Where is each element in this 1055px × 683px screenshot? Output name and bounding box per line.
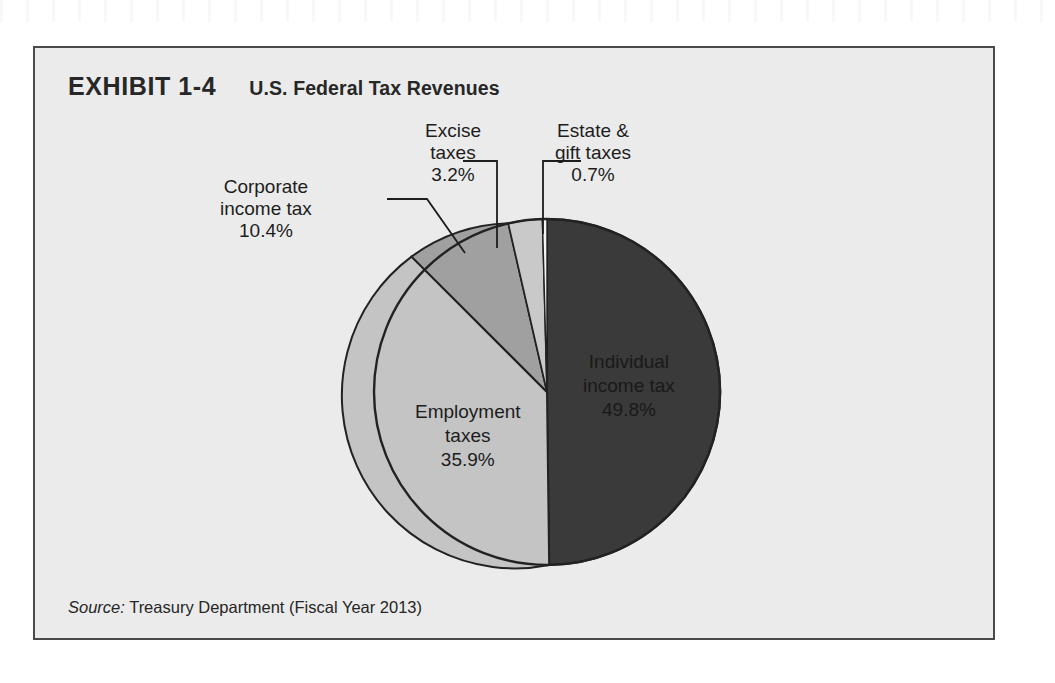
slice-label-employment-line2: taxes — [415, 424, 521, 448]
source-note: Source: Treasury Department (Fiscal Year… — [68, 598, 422, 617]
callout-excise-line2: taxes — [425, 142, 481, 164]
exhibit-panel: EXHIBIT 1-4 U.S. Federal Tax Revenues — [33, 46, 995, 640]
callout-excise-value: 3.2% — [425, 164, 481, 186]
slice-label-individual-income-tax: Individual income tax 49.8% — [583, 350, 675, 421]
pie-chart-svg — [35, 48, 993, 638]
source-text: Treasury Department (Fiscal Year 2013) — [125, 598, 422, 616]
callout-excise-line1: Excise — [425, 120, 481, 142]
slice-label-employment-line1: Employment — [415, 400, 521, 424]
callout-estate-line1: Estate & — [555, 120, 631, 142]
source-label: Source: — [68, 598, 125, 616]
slice-label-employment-value: 35.9% — [415, 448, 521, 472]
callout-excise-taxes: Excise taxes 3.2% — [425, 120, 481, 187]
callout-estate-value: 0.7% — [555, 164, 631, 186]
callout-corporate-line2: income tax — [220, 198, 312, 220]
callout-estate-line2: gift taxes — [555, 142, 631, 164]
callout-corporate-income-tax: Corporate income tax 10.4% — [220, 176, 312, 243]
callout-corporate-value: 10.4% — [220, 220, 312, 242]
slice-label-employment-taxes: Employment taxes 35.9% — [415, 400, 521, 471]
slice-label-individual-line1: Individual — [583, 350, 675, 374]
callout-corporate-line1: Corporate — [220, 176, 312, 198]
slice-label-individual-line2: income tax — [583, 374, 675, 398]
pie-chart: Excise taxes 3.2% Estate & gift taxes 0.… — [35, 48, 993, 638]
callout-estate-and-gift-taxes: Estate & gift taxes 0.7% — [555, 120, 631, 187]
slice-label-individual-value: 49.8% — [583, 398, 675, 422]
scan-artifact — [0, 0, 1055, 22]
